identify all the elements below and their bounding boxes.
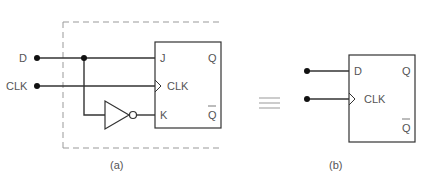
equivalence-icon (259, 98, 280, 108)
caption-b: (b) (329, 159, 342, 171)
caption-a: (a) (110, 159, 123, 171)
pin-d-b: D (354, 65, 362, 77)
pin-j: J (160, 52, 166, 64)
pin-k: K (160, 109, 168, 121)
pin-q: Q (208, 52, 217, 64)
input-label-clk: CLK (6, 80, 28, 92)
input-node-d (34, 55, 40, 61)
junction-node (81, 55, 87, 61)
input-node-d-b (304, 68, 310, 74)
inverter-icon (105, 101, 137, 129)
pin-q-b: Q (402, 65, 411, 77)
pin-clk: CLK (167, 80, 189, 92)
jk-to-d-flipflop-diagram: D CLK J CLK K Q Q (a) D CLK Q Q (b) (0, 0, 427, 177)
pin-q-bar-b: Q (402, 122, 411, 134)
input-node-clk-b (304, 96, 310, 102)
pin-q-bar: Q (208, 109, 217, 121)
input-node-clk (34, 83, 40, 89)
input-label-d: D (19, 52, 27, 64)
pin-clk-b: CLK (364, 93, 386, 105)
